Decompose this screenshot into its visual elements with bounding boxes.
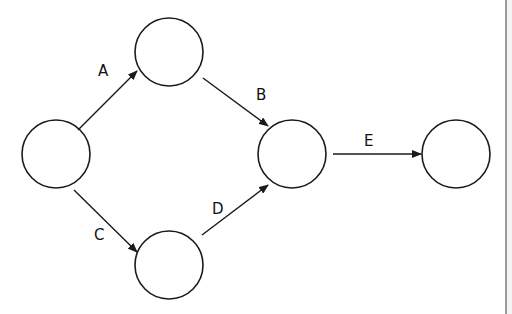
node-start <box>22 120 90 188</box>
node-bottom <box>135 231 203 299</box>
edge-a-label: A <box>98 62 109 80</box>
node-top <box>135 18 203 86</box>
diagram-canvas: A B C D E <box>0 0 512 314</box>
edge-c-arrow <box>74 190 137 252</box>
node-middle <box>258 120 326 188</box>
edge-d-label: D <box>212 200 224 218</box>
node-end <box>422 120 490 188</box>
edge-b-label: B <box>256 86 266 104</box>
activity-network-diagram: A B C D E <box>0 0 505 314</box>
edge-e-label: E <box>364 132 373 150</box>
edge-c-label: C <box>94 226 104 244</box>
window-edge-border <box>505 0 512 314</box>
